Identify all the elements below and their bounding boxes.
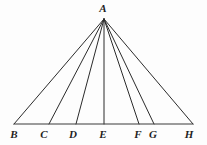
vertex-label-b: B xyxy=(9,128,17,140)
figure-canvas: ABCDEFGH xyxy=(0,0,207,145)
vertex-label-a: A xyxy=(98,2,106,14)
geometry-figure: ABCDEFGH xyxy=(0,0,207,145)
vertex-label-e: E xyxy=(98,128,106,140)
vertex-label-c: C xyxy=(40,128,48,140)
vertex-label-f: F xyxy=(133,128,142,140)
vertex-label-d: D xyxy=(68,128,77,140)
vertex-label-h: H xyxy=(184,128,194,140)
vertex-label-g: G xyxy=(149,128,157,140)
